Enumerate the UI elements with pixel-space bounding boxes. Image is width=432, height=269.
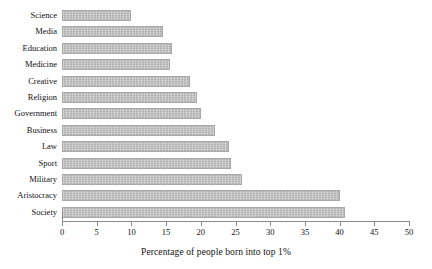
bar [62,10,131,21]
category-label: Military [1,174,57,185]
bar [62,190,340,201]
category-label: Law [1,141,57,152]
bar-row [62,158,409,169]
category-label: Sport [1,158,57,169]
bar-row [62,10,409,21]
bar [62,43,172,54]
category-axis-labels: ScienceMediaEducationMedicineCreativeRel… [0,8,57,221]
category-label: Government [1,108,57,119]
category-label: Science [1,10,57,21]
category-label: Education [1,43,57,54]
bar-row [62,92,409,103]
bar [62,76,190,87]
bar [62,108,201,119]
bar [62,158,231,169]
category-label: Aristocracy [1,190,57,201]
category-label: Business [1,125,57,136]
category-label: Religion [1,92,57,103]
x-axis-title: Percentage of people born into top 1% [0,247,432,257]
bar [62,125,215,136]
bar-row [62,190,409,201]
bar-chart: ScienceMediaEducationMedicineCreativeRel… [0,0,432,269]
category-label: Creative [1,76,57,87]
bar-row [62,76,409,87]
tick-mark [236,222,237,226]
bar-row [62,59,409,70]
tick-label: 40 [335,227,344,238]
tick-mark [409,222,410,226]
tick-mark [201,222,202,226]
tick-mark [340,222,341,226]
tick-label: 30 [266,227,275,238]
tick-mark [97,222,98,226]
category-label: Society [1,207,57,218]
bar-row [62,43,409,54]
tick-mark [305,222,306,226]
bar-row [62,125,409,136]
tick-label: 50 [405,227,414,238]
tick-label: 20 [197,227,206,238]
plot-area [62,8,409,221]
tick-label: 45 [370,227,379,238]
bar [62,92,197,103]
bar-row [62,207,409,218]
tick-label: 25 [231,227,240,238]
tick-label: 5 [95,227,99,238]
bar-row [62,174,409,185]
tick-mark [166,222,167,226]
bar-row [62,26,409,37]
tick-mark [131,222,132,226]
tick-label: 35 [301,227,310,238]
category-label: Medicine [1,59,57,70]
bar [62,141,229,152]
tick-label: 10 [127,227,136,238]
category-label: Media [1,26,57,37]
tick-label: 0 [60,227,64,238]
tick-mark [62,222,63,226]
bar [62,174,242,185]
bar [62,207,345,218]
bar [62,26,163,37]
tick-mark [270,222,271,226]
bar [62,59,170,70]
value-axis-origin-cap [62,212,63,221]
bar-row [62,141,409,152]
tick-label: 15 [162,227,171,238]
tick-mark [374,222,375,226]
bar-row [62,108,409,119]
